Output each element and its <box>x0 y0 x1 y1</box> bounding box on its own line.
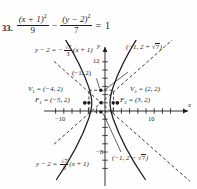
focus-1-value: = (−5, 2) <box>42 96 70 104</box>
x-tick-label-negative: −10 <box>55 115 65 122</box>
upper-corner-label-post: ) <box>160 43 162 51</box>
asymptote-positive-lhs: y − 2 = <box>36 160 59 168</box>
vertex-2-value: = (2, 2) <box>137 85 160 93</box>
fraction-second-numerator-text: (y − 2) <box>62 14 87 24</box>
lower-corner-label-pre: (−1, 2 − <box>112 154 138 162</box>
equals-operator: = <box>95 20 101 31</box>
fraction-first-numerator: (x + 1)2 <box>17 15 49 24</box>
vertex-2-point <box>112 101 115 104</box>
asymptote-positive-fraction: √73 <box>60 158 68 171</box>
vertex-2-label: V2 = (2, 2) <box>130 86 160 93</box>
focus-2-value: = (3, 2) <box>127 96 150 104</box>
fraction-second-numerator: (y − 2)2 <box>60 15 92 24</box>
problem-number: 33. <box>2 17 13 33</box>
lower-corner-point <box>99 110 102 113</box>
focus-2-label: F2 = (3, 2) <box>120 97 150 104</box>
upper-corner-label-pre: (−1, 2 + <box>126 43 152 51</box>
problem-equation-row: 33. (x + 1)2 9 − (y − 2)2 7 = 1 <box>2 8 195 42</box>
equation: (x + 1)2 9 − (y − 2)2 7 = 1 <box>16 15 112 35</box>
fraction-second-exponent: 2 <box>87 13 90 19</box>
fraction-first-exponent: 2 <box>44 13 47 19</box>
x-tick-label-positive: 10 <box>148 115 155 122</box>
figure-page: 33. (x + 1)2 9 − (y − 2)2 7 = 1 <box>0 0 197 189</box>
asymptote-negative-denominator: 3 <box>65 51 70 57</box>
fraction-second-denominator: 7 <box>74 26 79 35</box>
asymptote-negative-rhs: (x + 1) <box>73 46 93 54</box>
focus-1-point <box>83 101 87 105</box>
asymptote-negative-equation: y − 2 = −√73(x + 1) <box>35 44 93 57</box>
center-point-label: (−1, 2) <box>72 70 91 77</box>
lower-corner-label: (−1, 2 − √7) <box>112 154 148 162</box>
hyperbola-figure: (−1, 2 + √7) (−1, 2 − √7) (−1, 2) V1 = (… <box>0 40 197 189</box>
focus-2-point <box>115 101 119 105</box>
upper-corner-point <box>99 89 102 92</box>
y-axis-arrow <box>103 47 108 52</box>
y-tick-label-positive: 12 <box>93 57 100 64</box>
y-tick-label-negative: −8 <box>96 148 103 155</box>
y-axis-label: y <box>97 43 100 50</box>
leader-center-label <box>97 79 100 89</box>
asymptote-positive-equation: y − 2 = √73(x + 1) <box>36 158 89 171</box>
fraction-second: (y − 2)2 7 <box>60 15 92 35</box>
x-axis-arrow <box>183 109 188 114</box>
lower-corner-label-post: ) <box>146 154 148 162</box>
x-axis-label: x <box>188 102 191 109</box>
vertex-1-point <box>87 101 90 104</box>
vertex-1-value: = (−4, 2) <box>35 85 63 93</box>
minus-operator: − <box>52 20 58 31</box>
asymptote-negative-fraction: √73 <box>64 44 72 57</box>
vertex-1-label: V1 = (−4, 2) <box>28 86 63 93</box>
fraction-first: (x + 1)2 9 <box>17 15 49 35</box>
upper-corner-label: (−1, 2 + √7) <box>126 43 162 51</box>
asymptote-positive-rhs: (x + 1) <box>69 160 89 168</box>
asymptote-positive-denominator: 3 <box>62 165 67 171</box>
fraction-first-numerator-text: (x + 1) <box>19 14 44 24</box>
asymptote-negative-lhs: y − 2 = − <box>35 46 63 54</box>
leader-top-corner <box>104 72 129 91</box>
fraction-first-denominator: 9 <box>30 26 35 35</box>
center-point <box>99 101 102 104</box>
equation-rhs: 1 <box>105 20 110 31</box>
focus-1-label: F1 = (−5, 2) <box>35 97 70 104</box>
